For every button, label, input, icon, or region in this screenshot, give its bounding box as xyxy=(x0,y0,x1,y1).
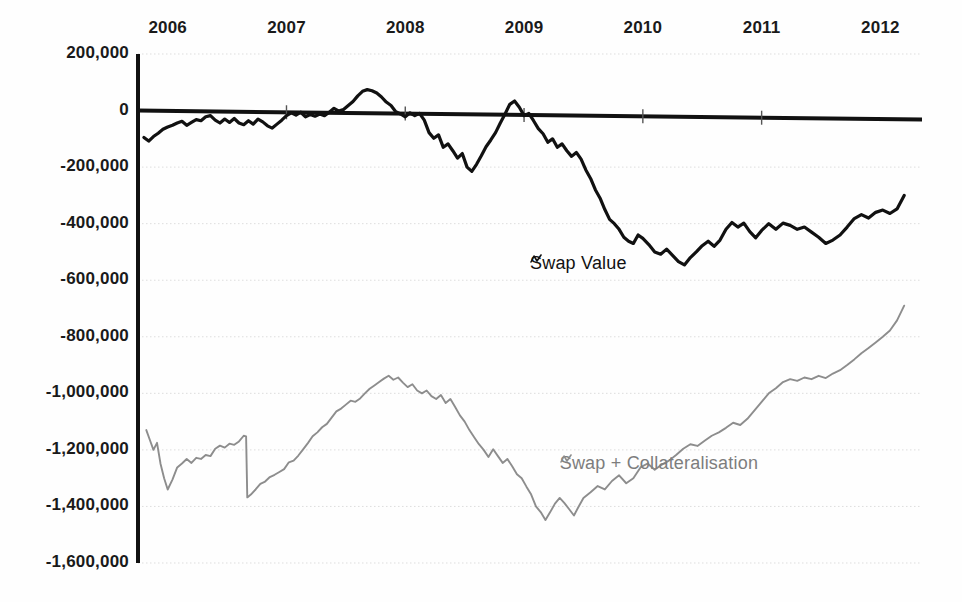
chart-container: 200,0000-200,000-400,000-600,000-800,000… xyxy=(0,0,962,602)
x-axis-tick-label: 2006 xyxy=(128,18,208,38)
y-axis-tick-label: -600,000 xyxy=(60,269,129,289)
y-axis-tick-label: -1,600,000 xyxy=(46,552,129,572)
legend-label-swap-collateralisation: Swap + Collateralisation xyxy=(560,453,758,474)
y-axis-tick-label: -1,200,000 xyxy=(46,439,129,459)
y-axis-tick-label: -1,400,000 xyxy=(46,495,129,515)
y-axis-tick-label: -200,000 xyxy=(60,156,129,176)
x-axis-tick-label: 2008 xyxy=(365,18,445,38)
zigzag-line-icon-swap-collateralisation xyxy=(560,453,574,465)
legend-label-swap-value: Swap Value xyxy=(530,253,627,274)
y-axis-tick-label: -1,000,000 xyxy=(46,382,129,402)
series-swap-value xyxy=(144,90,904,265)
x-axis-tick-label: 2012 xyxy=(840,18,920,38)
y-axis-tick-label: 200,000 xyxy=(66,43,129,63)
x-axis-tick-label: 2007 xyxy=(246,18,326,38)
y-axis-tick-label: 0 xyxy=(119,100,129,120)
legend-text: Swap Value xyxy=(530,253,627,273)
y-axis-tick-label: -400,000 xyxy=(60,213,129,233)
chart-plot-svg xyxy=(0,0,962,602)
legend-text: Swap + Collateralisation xyxy=(560,453,758,473)
zigzag-line-icon-swap-value xyxy=(530,253,544,265)
y-axis-tick-label: -800,000 xyxy=(60,326,129,346)
x-axis-tick-label: 2009 xyxy=(484,18,564,38)
x-axis-tick-label: 2010 xyxy=(603,18,683,38)
x-axis-tick-label: 2011 xyxy=(722,18,802,38)
series-swap-collateralisation xyxy=(146,306,904,520)
